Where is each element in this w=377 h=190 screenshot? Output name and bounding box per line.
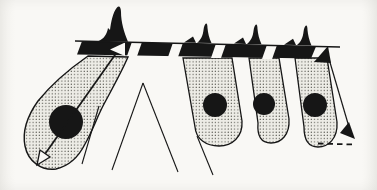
magma-body-3 <box>303 93 327 117</box>
figure-layers <box>24 7 355 175</box>
motion-arrow-head-up <box>314 46 331 63</box>
cross-section-figure <box>0 0 377 190</box>
magma-body-left <box>49 105 83 139</box>
volcano-3-foothill <box>234 38 246 44</box>
magma-body-2 <box>253 93 275 115</box>
chevron-right-leg <box>143 83 178 172</box>
chevron-left-leg <box>112 83 143 170</box>
depth-reference-dashes <box>318 144 354 145</box>
motion-arrow-head-down <box>340 122 355 139</box>
volcano-4-foothill <box>284 39 296 45</box>
volcano-1 <box>98 7 128 42</box>
scanned-figure-page <box>0 0 377 190</box>
volcano-3 <box>247 24 262 44</box>
volcano-2 <box>197 23 212 43</box>
volcano-2-foothill <box>184 37 196 43</box>
volcano-4 <box>297 25 312 45</box>
magma-body-1 <box>203 93 227 117</box>
